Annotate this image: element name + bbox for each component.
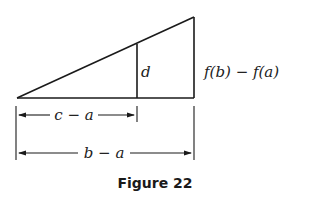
arrowhead-left-icon <box>18 113 26 118</box>
figure-caption: Figure 22 <box>117 175 192 191</box>
similar-triangles-diagram: d f(b) − f(a) c − a b − a Figure 22 <box>0 0 310 200</box>
hypotenuse <box>17 17 194 98</box>
arrowhead-right-icon <box>127 113 135 118</box>
triangle <box>17 17 194 98</box>
outer-height-label: f(b) − f(a) <box>203 63 279 81</box>
long-span-label: b − a <box>84 144 125 162</box>
arrowhead-right-icon <box>184 151 192 156</box>
arrowhead-left-icon <box>18 151 26 156</box>
inner-height-label: d <box>141 63 151 81</box>
short-span-label: c − a <box>54 106 93 124</box>
